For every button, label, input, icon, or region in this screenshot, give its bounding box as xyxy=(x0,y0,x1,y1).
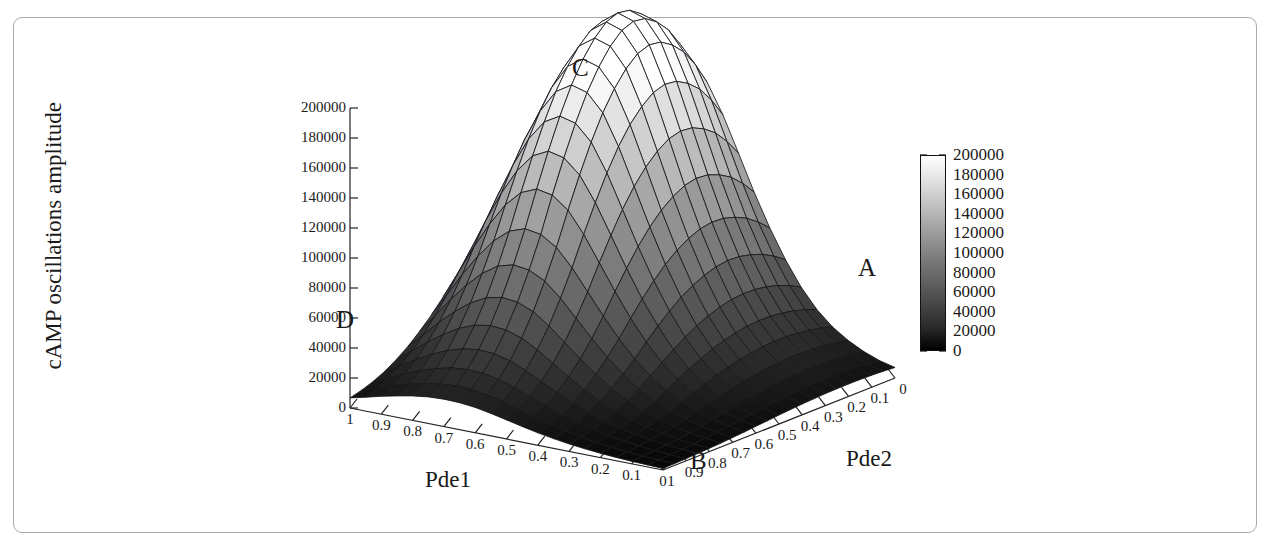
pde1-tick-label: 0.7 xyxy=(428,431,460,446)
pde1-tick-label: 0.9 xyxy=(365,418,397,433)
colorbar-gradient xyxy=(920,155,946,351)
colorbar-tick-label: 180000 xyxy=(953,166,1004,183)
corner-label-b: B xyxy=(690,448,707,473)
pde2-tick xyxy=(818,397,825,406)
colorbar-tick-label: 80000 xyxy=(953,264,996,281)
colorbar-tick-label: 40000 xyxy=(953,303,996,320)
pde2-tick-label: 0 xyxy=(887,382,919,397)
z-tick-label: 200000 xyxy=(258,100,346,115)
pde1-tick xyxy=(475,424,482,433)
pde2-tick xyxy=(888,369,895,378)
surface-mesh xyxy=(350,10,895,468)
pde2-tick xyxy=(865,378,872,387)
colorbar-tick-label: 100000 xyxy=(953,244,1004,261)
pde1-tick xyxy=(507,430,514,439)
colorbar-tick-label: 200000 xyxy=(953,146,1004,163)
colorbar-tick-label: 0 xyxy=(953,342,962,359)
z-tick-label: 180000 xyxy=(258,130,346,145)
z-tick-label: 0 xyxy=(258,400,346,415)
colorbar-tick-label: 160000 xyxy=(953,185,1004,202)
pde1-tick-label: 0.2 xyxy=(584,462,616,477)
pde1-tick xyxy=(350,399,357,408)
pde1-tick xyxy=(413,411,420,420)
z-tick-label: 100000 xyxy=(258,250,346,265)
pde1-tick xyxy=(444,418,451,427)
pde1-tick-label: 0.8 xyxy=(397,424,429,439)
pde1-tick xyxy=(381,405,388,414)
z-tick-label: 40000 xyxy=(258,340,346,355)
pde1-tick-label: 0.6 xyxy=(459,437,491,452)
colorbar-tick-label: 120000 xyxy=(953,224,1004,241)
z-tick-label: 60000 xyxy=(258,310,346,325)
pde2-axis-title: Pde2 xyxy=(846,447,892,470)
pde1-tick-label: 0.3 xyxy=(553,455,585,470)
pde1-axis-title: Pde1 xyxy=(425,468,471,491)
pde1-tick-label: 0.5 xyxy=(491,443,523,458)
z-tick-label: 140000 xyxy=(258,190,346,205)
pde1-tick-label: 0.4 xyxy=(522,449,554,464)
z-tick-label: 120000 xyxy=(258,220,346,235)
z-tick-label: 80000 xyxy=(258,280,346,295)
colorbar-tick-label: 20000 xyxy=(953,322,996,339)
corner-label-c: C xyxy=(572,55,589,80)
colorbar-tick-label: 60000 xyxy=(953,283,996,300)
pde1-tick xyxy=(538,436,545,445)
z-tick-label: 20000 xyxy=(258,370,346,385)
corner-label-a: A xyxy=(858,255,876,280)
corner-label-d: D xyxy=(336,307,354,332)
z-axis-title: cAMP oscillations amplitude xyxy=(42,140,65,370)
figure-container: cAMP oscillations amplitude 10.90.80.70.… xyxy=(0,0,1276,542)
z-tick-label: 160000 xyxy=(258,160,346,175)
pde1-tick-label: 0.1 xyxy=(616,468,648,483)
pde2-tick xyxy=(842,387,849,396)
colorbar-tick-label: 140000 xyxy=(953,205,1004,222)
surface-plot-canvas xyxy=(0,0,1276,542)
